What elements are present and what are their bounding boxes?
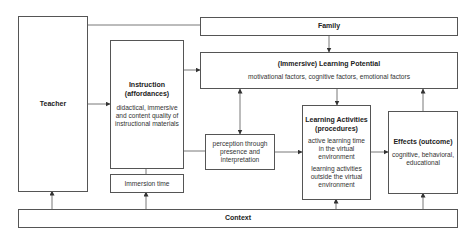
immersion-time-label: Immersion time bbox=[124, 180, 169, 188]
context-label: Context bbox=[225, 214, 251, 223]
learning-activities-title-1: Learning Activities bbox=[305, 116, 367, 125]
learning-activities-body1-2: in the virtual bbox=[319, 145, 355, 153]
effects-body-1: cognitive, behavioral, bbox=[392, 151, 454, 159]
effects-body-2: educational bbox=[406, 159, 440, 167]
learning-potential-body: motivational factors, cognitive factors,… bbox=[248, 73, 410, 81]
instruction-title-1: Instruction bbox=[129, 81, 165, 90]
perception-line-2: presence and bbox=[220, 148, 260, 156]
instruction-body-3: instructional materials bbox=[115, 120, 179, 128]
learning-activities-body1-1: active learning time bbox=[308, 137, 365, 145]
instruction-title-2: (affordances) bbox=[125, 90, 169, 99]
learning-activities-body2-1: learning activities bbox=[311, 165, 362, 173]
perception-line-1: perception through bbox=[213, 140, 268, 148]
learning-activities-title-2: (procedures) bbox=[315, 125, 358, 134]
immersion-time-node: Immersion time bbox=[110, 174, 184, 193]
instruction-node: Instruction (affordances) didactical, im… bbox=[110, 40, 184, 169]
perception-node: perception through presence and interpre… bbox=[205, 134, 275, 170]
learning-activities-body2-2: outside the virtual bbox=[311, 173, 363, 181]
learning-potential-title: (Immersive) Learning Potential bbox=[278, 60, 380, 69]
teacher-node: Teacher bbox=[18, 16, 88, 192]
family-label: Family bbox=[318, 22, 340, 31]
instruction-body-2: and content quality of bbox=[116, 112, 179, 120]
learning-activities-body2-3: environment bbox=[318, 181, 354, 189]
learning-activities-body1-3: environment bbox=[318, 153, 354, 161]
instruction-body-1: didactical, immersive bbox=[116, 104, 177, 112]
context-node: Context bbox=[18, 209, 458, 228]
teacher-label: Teacher bbox=[40, 100, 66, 109]
family-node: Family bbox=[200, 17, 458, 36]
learning-activities-node: Learning Activities (procedures) active … bbox=[302, 105, 371, 200]
effects-node: Effects (outcome) cognitive, behavioral,… bbox=[388, 111, 458, 194]
learning-potential-node: (Immersive) Learning Potential motivatio… bbox=[200, 52, 458, 89]
effects-title: Effects (outcome) bbox=[393, 138, 452, 147]
perception-line-3: interpretation bbox=[221, 156, 260, 164]
